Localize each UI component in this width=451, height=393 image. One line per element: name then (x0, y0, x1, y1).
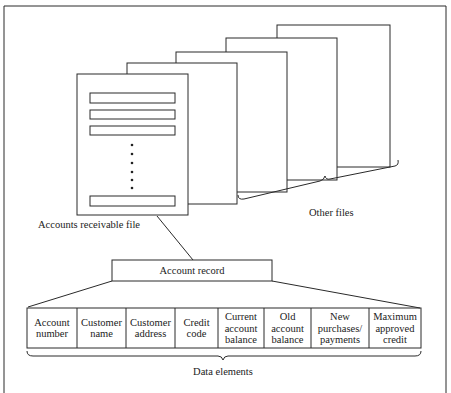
data-element-label: credit (383, 334, 407, 345)
data-element-label: purchases/ (318, 323, 362, 334)
file-label: Accounts receivable file (38, 219, 140, 230)
data-element-label: Customer (81, 317, 122, 328)
data-element-label: account (225, 323, 258, 334)
data-element-label: Current (225, 311, 257, 322)
accounts-receivable-file (77, 74, 188, 215)
data-element-label: account (271, 323, 304, 334)
data-element-label: code (187, 328, 207, 339)
file-structure-diagram: Other files Accounts receivable file Acc… (0, 0, 451, 393)
data-element-label: balance (225, 334, 257, 345)
expansion-line-left (28, 281, 112, 307)
data-element-label: New (330, 311, 350, 322)
account-record-label: Account record (159, 265, 225, 276)
data-element-label: payments (320, 334, 360, 345)
file-to-record-connector (157, 216, 193, 260)
data-element-label: Maximum (373, 311, 417, 322)
data-element-label: name (90, 328, 113, 339)
data-element-label: Credit (183, 317, 209, 328)
expansion-line-right (272, 281, 420, 308)
data-element-label: balance (271, 334, 303, 345)
data-element-label: number (36, 328, 69, 339)
data-element-label: Account (34, 317, 70, 328)
other-files-label: Other files (309, 207, 354, 218)
data-elements-brace (27, 351, 421, 360)
data-element-label: address (135, 328, 167, 339)
data-elements-row: AccountnumberCustomernameCustomeraddress… (27, 308, 421, 348)
data-element-label: Old (280, 311, 297, 322)
data-element-label: Customer (130, 317, 171, 328)
data-elements-label: Data elements (193, 366, 253, 377)
data-element-label: approved (375, 323, 415, 334)
